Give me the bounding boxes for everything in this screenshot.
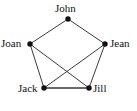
node-label-jill: Jill — [93, 83, 106, 94]
node-label-jean: Jean — [110, 38, 130, 49]
graph-edge-joan-jill — [30, 44, 89, 88]
graph-node-joan[interactable] — [27, 41, 32, 46]
graph-edge-john-joan — [30, 19, 68, 44]
friendship-graph-figure: JohnJoanJeanJackJill — [0, 0, 137, 111]
graph-node-jill[interactable] — [86, 85, 91, 90]
graph-edge-john-jean — [68, 19, 105, 44]
graph-node-john[interactable] — [65, 16, 70, 21]
node-label-jack: Jack — [18, 83, 38, 94]
edges-group — [30, 19, 105, 88]
graph-node-jack[interactable] — [41, 85, 46, 90]
graph-canvas — [0, 0, 137, 111]
node-label-joan: Joan — [1, 38, 21, 49]
node-label-john: John — [55, 3, 76, 14]
graph-node-jean[interactable] — [102, 41, 107, 46]
nodes-group — [27, 16, 107, 90]
